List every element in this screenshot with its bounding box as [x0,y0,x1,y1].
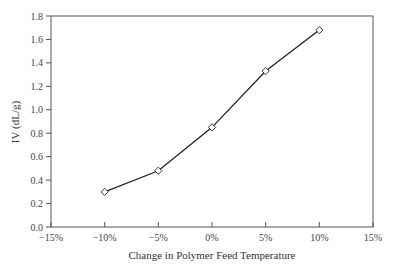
x-tick-label: 10% [310,232,328,243]
y-axis: 0.00.20.40.60.81.01.21.41.61.8 [31,11,52,233]
x-tick-label: 15% [364,232,382,243]
y-axis-title: IV (dL/g) [9,101,22,144]
diamond-marker-icon [101,188,108,195]
x-tick-label: −5% [149,232,168,243]
x-tick-label: 5% [259,232,272,243]
y-tick-label: 0.8 [31,128,44,139]
y-tick-label: 0.0 [31,222,44,233]
y-tick-label: 0.6 [31,151,44,162]
y-tick-label: 1.6 [31,34,44,45]
y-tick-label: 1.0 [31,104,44,115]
line-chart: 0.00.20.40.60.81.01.21.41.61.8 −15%−10%−… [0,0,395,273]
x-tick-label: −10% [93,232,117,243]
x-tick-label: −15% [39,232,63,243]
plot-border [51,16,373,227]
series-line [105,30,320,192]
y-tick-label: 1.8 [31,11,44,22]
y-tick-label: 0.2 [31,198,44,209]
x-axis-title: Change in Polymer Feed Temperature [128,249,295,261]
x-tick-label: 0% [205,232,218,243]
x-axis: −15%−10%−5%0%5%10%15% [39,222,382,243]
data-series [101,26,323,195]
plot-frame [51,16,373,227]
y-tick-label: 1.2 [31,81,44,92]
y-tick-label: 1.4 [31,57,44,68]
y-tick-label: 0.4 [31,175,44,186]
